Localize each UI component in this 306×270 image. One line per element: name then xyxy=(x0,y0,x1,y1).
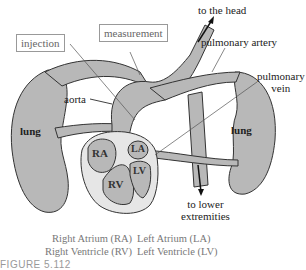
rv-label: RV xyxy=(108,178,124,190)
legend-lv: Left Ventricle (LV) xyxy=(137,245,217,258)
pulmonary-artery-pointer xyxy=(212,48,225,72)
legend-rv: Right Ventricle (RV) xyxy=(35,245,132,258)
to-lower-label-line1: to lower xyxy=(181,198,230,210)
legend-la: Left Atrium (LA) xyxy=(137,232,217,245)
to-lower-label-line2: extremities xyxy=(181,210,230,222)
pulmonary-vein-label: pulmonary vein xyxy=(257,70,305,94)
pulmonary-artery-label: pulmonary artery xyxy=(201,36,277,48)
left-lung-shape xyxy=(11,70,68,212)
legend-left-column: Right Atrium (RA) Right Ventricle (RV) xyxy=(35,232,132,258)
right-lung-label: lung xyxy=(231,124,252,136)
ra-label: RA xyxy=(92,147,108,159)
figure-caption: FIGURE 5.112 xyxy=(0,259,71,270)
to-head-label: to the head xyxy=(198,4,246,16)
to-lower-arrowhead xyxy=(198,189,204,196)
pulmonary-vein-label-line2: vein xyxy=(257,82,305,94)
to-lower-label: to lower extremities xyxy=(181,198,230,222)
to-head-arrowhead xyxy=(208,16,214,24)
legend-right-column: Left Atrium (LA) Left Ventricle (LV) xyxy=(137,232,217,258)
left-lung-label: lung xyxy=(20,125,41,137)
injection-label: injection xyxy=(16,34,65,52)
lv-label: LV xyxy=(133,165,146,176)
aorta-label: aorta xyxy=(64,93,86,105)
la-label: LA xyxy=(131,143,145,154)
legend-ra: Right Atrium (RA) xyxy=(35,232,132,245)
descending-vessel xyxy=(188,92,208,187)
measurement-label: measurement xyxy=(99,24,168,42)
aorta-pointer xyxy=(90,99,112,104)
pulmonary-vein-label-line1: pulmonary xyxy=(257,70,305,82)
injection-pointer xyxy=(70,44,135,120)
